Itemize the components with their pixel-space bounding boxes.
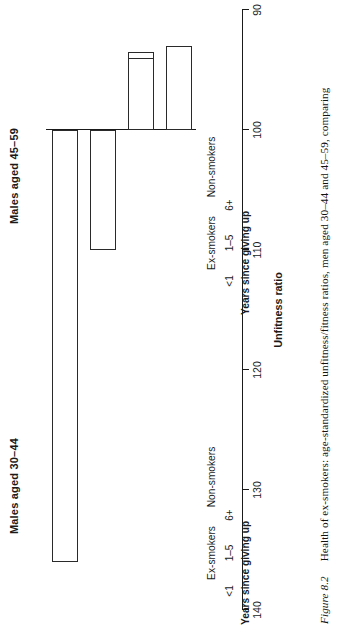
bar-6-: [128, 58, 154, 130]
panel-males-30-44: Males aged 30–44 <11–56+Ex-smokersNon-sm…: [6, 362, 264, 610]
value-axis: 14013012011010090Unfitness ratio: [242, 10, 302, 610]
bar-1-5: [90, 130, 116, 250]
panel-title-45-59: Males aged 45–59: [8, 52, 20, 300]
group-label-ex-smokers: Ex-smokers: [206, 513, 217, 593]
axis-tick: [242, 609, 249, 610]
rotated-figure-canvas: Males aged 30–44 <11–56+Ex-smokersNon-sm…: [0, 0, 360, 632]
bar-non-smokers: [166, 46, 192, 130]
panel-males-45-59: Males aged 45–59 <11–56+Ex-smokersNon-sm…: [6, 52, 264, 300]
category-tick-1-5: 1–5: [224, 537, 235, 569]
axis-tick: [242, 129, 249, 130]
axis-tick: [242, 249, 249, 250]
axis-tick-label: 140: [251, 601, 263, 619]
axis-tick-label: 100: [251, 121, 263, 139]
axis-title-unfitness-ratio: Unfitness ratio: [272, 272, 284, 348]
figure-page: Males aged 30–44 <11–56+Ex-smokersNon-sm…: [0, 0, 360, 632]
chart-plot-area: Males aged 30–44 <11–56+Ex-smokersNon-sm…: [6, 10, 306, 610]
figure-caption-text: Health of ex-smokers: age-standardized u…: [318, 88, 330, 562]
axis-tick: [242, 9, 249, 10]
group-label-ex-smokers: Ex-smokers: [206, 203, 217, 283]
category-tick-1-5: 1–5: [224, 227, 235, 259]
figure-number: Figure 8.2: [318, 576, 330, 624]
axis-tick-label: 110: [251, 242, 263, 259]
figure-caption: Figure 8.2 Health of ex-smokers: age-sta…: [318, 8, 330, 624]
category-tick--1: <1: [224, 265, 235, 297]
axis-tick-label: 130: [251, 481, 263, 499]
bar-group-45-59: [46, 52, 196, 300]
axis-tick-label: 90: [251, 4, 263, 16]
category-tick-6-: 6+: [224, 189, 235, 221]
axis-tick-label: 120: [251, 361, 263, 379]
group-label-non-smokers: Non-smokers: [206, 123, 217, 211]
category-tick-6-: 6+: [224, 499, 235, 531]
value-axis-line: [242, 10, 243, 610]
panel-title-30-44: Males aged 30–44: [8, 362, 20, 610]
category-tick--1: <1: [224, 575, 235, 607]
group-label-non-smokers: Non-smokers: [206, 433, 217, 521]
axis-tick: [242, 489, 249, 490]
axis-tick: [242, 369, 249, 370]
bar--1: [52, 130, 78, 562]
